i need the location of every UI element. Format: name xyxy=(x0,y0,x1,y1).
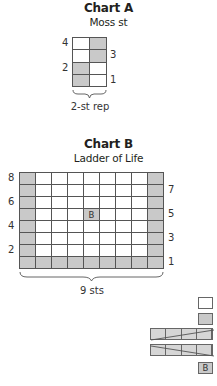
key-white-square-icon xyxy=(198,297,213,309)
chart-b-cell xyxy=(148,209,163,220)
chart-b-cell xyxy=(52,185,67,196)
chart-b-cell xyxy=(36,173,51,184)
chart-a-row-label-1: 1 xyxy=(110,74,116,86)
chart-b-width-label: 9 sts xyxy=(52,285,132,296)
chart-b-cell xyxy=(148,185,163,196)
chart-b-cell xyxy=(100,245,115,256)
chart-b-bobble-cell: B xyxy=(84,209,99,220)
chart-b-cell xyxy=(148,221,163,232)
chart-b-cell xyxy=(148,257,163,268)
chart-b-cell xyxy=(52,197,67,208)
chart-b-cell xyxy=(132,185,147,196)
chart-b-cell xyxy=(148,173,163,184)
chart-a-repeat-label: 2-st rep xyxy=(50,101,130,112)
chart-b-cell xyxy=(20,257,35,268)
chart-b-subtitle: Ladder of Life xyxy=(0,152,217,164)
chart-b-cell xyxy=(116,209,131,220)
chart-b-grid: B xyxy=(19,172,164,269)
chart-b-cell xyxy=(20,173,35,184)
chart-b-cell xyxy=(100,209,115,220)
key-bobble-icon: B xyxy=(198,362,213,374)
key-bobble-label: B xyxy=(203,363,209,373)
chart-b-cell xyxy=(148,233,163,244)
chart-b-row-label-7: 7 xyxy=(168,184,174,196)
chart-b-row-label-6: 6 xyxy=(8,196,14,208)
chart-b-cell xyxy=(116,173,131,184)
chart-b-cell xyxy=(68,221,83,232)
chart-a-subtitle: Moss st xyxy=(0,16,217,28)
chart-b-cell xyxy=(52,233,67,244)
chart-b-cell xyxy=(68,185,83,196)
chart-b-cell xyxy=(68,173,83,184)
key-right-cable-icon xyxy=(150,328,213,340)
chart-b-cell xyxy=(84,185,99,196)
chart-b-cell xyxy=(36,257,51,268)
chart-b-cell xyxy=(52,221,67,232)
chart-a-cell xyxy=(90,50,106,61)
chart-a-cell xyxy=(90,75,106,86)
chart-b-cell xyxy=(68,197,83,208)
chart-b-cell xyxy=(36,197,51,208)
chart-b-cell xyxy=(116,185,131,196)
chart-b-cell xyxy=(132,221,147,232)
chart-b-cell xyxy=(52,209,67,220)
chart-b-cell xyxy=(100,173,115,184)
chart-b-cell xyxy=(20,221,35,232)
chart-b-cell xyxy=(100,197,115,208)
chart-b-row-label-1: 1 xyxy=(168,256,174,268)
chart-b-cell xyxy=(52,257,67,268)
chart-b-cell xyxy=(116,221,131,232)
chart-b-row-label-4: 4 xyxy=(8,220,14,232)
chart-a-cell xyxy=(73,38,89,49)
chart-b-width-brace xyxy=(19,271,164,282)
chart-b-cell xyxy=(20,209,35,220)
chart-b-cell xyxy=(132,233,147,244)
chart-b-cell xyxy=(20,233,35,244)
chart-b-cell xyxy=(36,233,51,244)
chart-a-cell xyxy=(73,63,89,74)
chart-a-title: Chart A xyxy=(0,1,217,15)
chart-b-cell xyxy=(100,221,115,232)
chart-b-cell xyxy=(68,233,83,244)
chart-b-cell xyxy=(132,209,147,220)
key-gray-square-icon xyxy=(198,313,213,325)
chart-b-row-label-2: 2 xyxy=(8,244,14,256)
chart-b-cell xyxy=(36,245,51,256)
chart-b-cell xyxy=(20,245,35,256)
chart-b-cell xyxy=(36,209,51,220)
chart-b-cell xyxy=(132,257,147,268)
chart-b-title: Chart B xyxy=(0,137,217,151)
chart-b-row-label-5: 5 xyxy=(168,208,174,220)
chart-a-cell xyxy=(73,50,89,61)
chart-b-cell xyxy=(52,245,67,256)
chart-a-row-label-3: 3 xyxy=(110,49,116,61)
chart-b-cell xyxy=(84,197,99,208)
chart-b-cell xyxy=(20,185,35,196)
chart-b-cell xyxy=(68,245,83,256)
chart-b-cell xyxy=(84,245,99,256)
chart-b-cell xyxy=(36,185,51,196)
chart-b-cell xyxy=(68,257,83,268)
chart-b-cell xyxy=(68,209,83,220)
chart-b-cell xyxy=(116,245,131,256)
chart-b-cell xyxy=(132,173,147,184)
chart-b-cell xyxy=(116,197,131,208)
chart-a-grid xyxy=(72,37,107,87)
chart-b-cell xyxy=(116,233,131,244)
chart-b-cell xyxy=(116,257,131,268)
chart-b-row-label-3: 3 xyxy=(168,232,174,244)
chart-b-cell xyxy=(84,257,99,268)
chart-a-cell xyxy=(90,38,106,49)
chart-a-repeat-brace xyxy=(72,89,107,99)
chart-b-cell xyxy=(148,245,163,256)
chart-a-row-label-2: 2 xyxy=(62,62,68,74)
chart-b-row-label-8: 8 xyxy=(8,172,14,184)
chart-b-cell xyxy=(132,245,147,256)
chart-b-cell xyxy=(84,221,99,232)
chart-b-cell xyxy=(100,185,115,196)
chart-b-cell xyxy=(100,233,115,244)
chart-b-cell xyxy=(36,221,51,232)
chart-b-cell xyxy=(132,197,147,208)
chart-b-cell xyxy=(52,173,67,184)
chart-a-cell xyxy=(73,75,89,86)
